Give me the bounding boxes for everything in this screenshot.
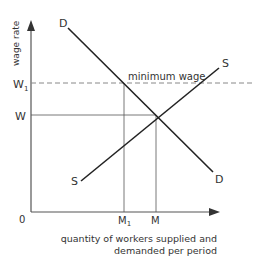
x-axis-label-line1: quantity of workers supplied and <box>61 233 217 244</box>
minimum-wage-annotation: minimum wage <box>128 71 205 82</box>
supply-label-top: S <box>222 57 229 70</box>
y-axis-label: wage rate <box>11 20 21 66</box>
x-axis-label-line2: demanded per period <box>114 245 217 256</box>
w-tick-label: W <box>15 110 26 123</box>
minimum-wage-diagram: D D S S minimum wage wage rate W1 W 0 M1… <box>0 0 267 264</box>
m1-tick-label: M1 <box>118 215 131 228</box>
x-axis-arrow-icon <box>209 208 220 216</box>
y-axis-arrow-icon <box>27 20 35 31</box>
demand-label-top: D <box>59 17 67 30</box>
demand-curve <box>68 28 213 172</box>
m-tick-label: M <box>151 215 160 226</box>
supply-label-bottom: S <box>71 175 78 188</box>
w1-tick-label: W1 <box>13 78 28 93</box>
origin-label: 0 <box>19 214 25 225</box>
demand-label-bottom: D <box>215 173 223 186</box>
supply-curve <box>81 68 219 181</box>
